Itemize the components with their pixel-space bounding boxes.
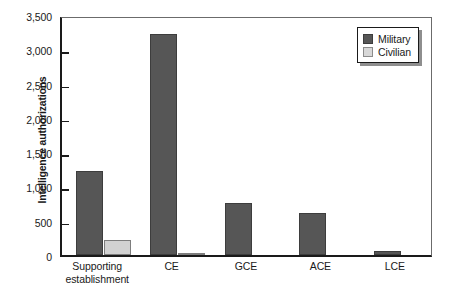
x-axis-label-line: ACE bbox=[283, 260, 357, 273]
legend-item-military: Military bbox=[363, 32, 411, 45]
bar-military-ce bbox=[150, 34, 177, 255]
x-axis-label-line: CE bbox=[134, 260, 208, 273]
x-axis-label-ace: ACE bbox=[283, 260, 357, 273]
x-axis-label-line: LCE bbox=[358, 260, 432, 273]
y-tick-label: 500 bbox=[35, 217, 52, 229]
legend-label: Civilian bbox=[378, 46, 411, 58]
x-axis-label-lce: LCE bbox=[358, 260, 432, 273]
legend-swatch-military-icon bbox=[363, 34, 373, 44]
y-tick-label: 1,500 bbox=[26, 148, 52, 160]
x-axis-label-gce: GCE bbox=[209, 260, 283, 273]
x-axis-label-line: GCE bbox=[209, 260, 283, 273]
y-tick-label: 0 bbox=[46, 251, 52, 263]
legend-label: Military bbox=[378, 33, 410, 45]
x-axis-label-line: Supporting bbox=[60, 260, 134, 273]
y-tick-label: 1,000 bbox=[26, 182, 52, 194]
y-tick-label: 3,000 bbox=[26, 45, 52, 57]
bar-military-ace bbox=[299, 213, 326, 256]
x-axis-label-supporting-establishment: Supportingestablishment bbox=[60, 260, 134, 285]
bar-military-supporting-establishment bbox=[76, 171, 103, 255]
bar-chart: Intelligence authorizations 05001,0001,5… bbox=[0, 0, 449, 297]
bar-civilian-supporting-establishment bbox=[104, 240, 131, 255]
y-axis-tick-labels: 05001,0001,5002,0002,5003,0003,500 bbox=[0, 0, 56, 297]
y-tick-label: 2,500 bbox=[26, 80, 52, 92]
x-axis-label-ce: CE bbox=[134, 260, 208, 273]
bar-military-gce bbox=[225, 203, 252, 255]
legend-item-civilian: Civilian bbox=[363, 45, 411, 58]
chart-legend: MilitaryCivilian bbox=[357, 27, 419, 63]
y-tick-label: 2,000 bbox=[26, 114, 52, 126]
legend-swatch-civilian-icon bbox=[363, 47, 373, 57]
x-axis-label-line: establishment bbox=[60, 273, 134, 286]
x-axis-category-labels: SupportingestablishmentCEGCEACELCE bbox=[60, 260, 432, 296]
y-tick-label: 3,500 bbox=[26, 11, 52, 23]
bar-military-lce bbox=[374, 251, 401, 255]
bar-civilian-ce bbox=[178, 253, 205, 255]
